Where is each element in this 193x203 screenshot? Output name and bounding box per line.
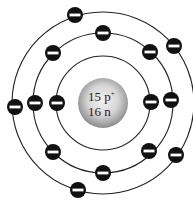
neutrons-label: 16 n	[88, 104, 111, 119]
electron-middle	[95, 165, 111, 181]
electron-middle	[45, 45, 61, 61]
minus-icon	[30, 102, 41, 105]
minus-icon	[166, 99, 177, 102]
minus-icon	[73, 189, 84, 192]
minus-icon	[98, 32, 109, 35]
electron-middle	[95, 25, 111, 41]
minus-icon	[52, 102, 63, 105]
minus-icon	[169, 45, 180, 48]
electron-middle	[163, 92, 179, 108]
protons-label: 15 p+	[88, 89, 115, 104]
minus-icon	[98, 172, 109, 175]
electron-middle	[142, 44, 158, 60]
electron-middle	[45, 144, 61, 160]
minus-icon	[145, 51, 156, 54]
minus-icon	[48, 52, 59, 55]
minus-icon	[48, 151, 59, 154]
minus-icon	[144, 150, 155, 153]
electron-outer	[7, 99, 23, 115]
electron-inner	[143, 94, 159, 110]
electron-inner	[49, 95, 65, 111]
minus-icon	[70, 14, 81, 17]
electron-middle	[141, 143, 157, 159]
electron-outer	[70, 182, 86, 198]
minus-icon	[171, 154, 182, 157]
electron-middle	[27, 95, 43, 111]
minus-icon	[146, 101, 157, 104]
minus-icon	[10, 106, 21, 109]
electron-outer	[67, 7, 83, 23]
bohr-model-diagram: 15 p+ 16 n	[0, 0, 193, 203]
nucleus: 15 p+ 16 n	[78, 78, 128, 128]
electron-outer	[168, 147, 184, 163]
electron-outer	[166, 38, 182, 54]
